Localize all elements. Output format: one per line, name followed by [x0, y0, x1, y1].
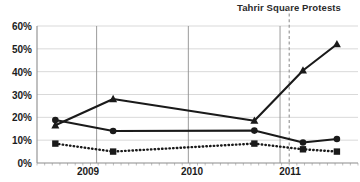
horizontal-gridlines: [37, 26, 358, 140]
data-series-layer: [51, 40, 341, 155]
plot-area: [0, 0, 360, 182]
axis-lines: [37, 26, 358, 166]
chart-container: Tahrir Square Protests 60% 50% 40% 30% 2…: [0, 0, 360, 182]
